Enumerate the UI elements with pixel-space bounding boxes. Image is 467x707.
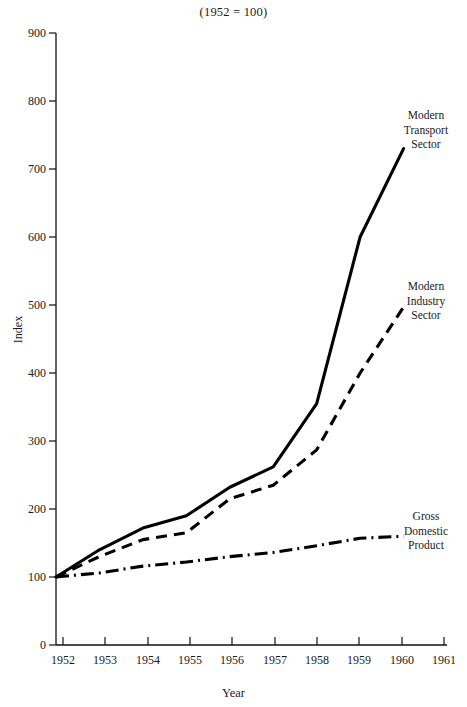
series-annotation-modern-industry-sector: Modern Industry Sector (390, 279, 462, 323)
y-tick-marks (49, 33, 56, 645)
x-tick-marks (63, 637, 444, 645)
chart-figure: (1952 = 100) Index Year 900 800 700 600 … (0, 0, 467, 707)
plot-canvas (0, 0, 467, 707)
series-line-gross-domestic-product (56, 536, 404, 577)
series-annotation-gross-domestic-product: Gross Domestic Product (390, 509, 462, 553)
series-line-modern-transport-sector (56, 149, 404, 577)
series-annotation-modern-transport-sector: Modern Transport Sector (390, 108, 462, 152)
series-line-modern-industry-sector (56, 307, 404, 577)
